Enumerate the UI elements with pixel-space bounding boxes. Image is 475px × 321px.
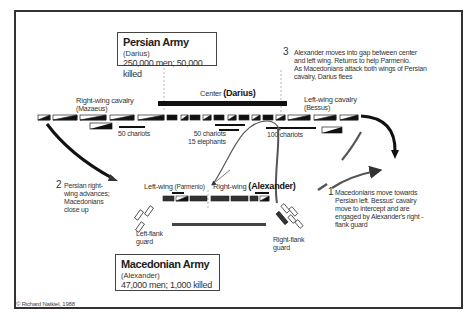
chariots-100-label: 100 chariots xyxy=(267,131,303,139)
macedonian-army-title: Macedonian Army xyxy=(121,258,214,271)
macedonian-left-wing-label: Left-wing (Parmenio) xyxy=(144,183,205,191)
chariots-50-label: 50 chariots xyxy=(118,130,150,138)
macedonian-front-line xyxy=(163,192,269,201)
chariots-elephants-label: 50 chariots 15 elephants xyxy=(182,130,226,146)
macedonian-right-wing-label: Right-wing (Alexander) xyxy=(213,182,296,191)
persian-front-line xyxy=(38,115,358,120)
persian-army-title: Persian Army xyxy=(123,36,211,49)
persian-center-label: Center (Darius) xyxy=(200,89,256,98)
left-flank-guard-units xyxy=(134,206,153,232)
right-flank-guard-units xyxy=(276,204,303,229)
annotation-2: 2 Persian right- wing advances; Macedoni… xyxy=(56,182,109,214)
copyright-credit: © Richard Natkiel, 1988 xyxy=(16,300,75,308)
persian-center-bar xyxy=(158,101,287,106)
persian-army-stats: 250,000 men; 50,000 killed xyxy=(123,58,211,80)
macedonian-army-commander: (Alexander) xyxy=(121,271,214,280)
annotation-1: 1 Macedonians move towards Persian left.… xyxy=(328,189,423,229)
left-flank-guard-label: Left-flank guard xyxy=(136,230,163,246)
annotation-3: 3 Alexander moves into gap between cente… xyxy=(283,49,427,81)
persian-right-wing-label: Right-wing cavalry (Mazaeus) xyxy=(76,97,134,113)
persian-army-box: Persian Army (Darius) 250,000 men; 50,00… xyxy=(117,32,217,66)
right-flank-guard-label: Right-flank guard xyxy=(273,236,304,252)
persian-army-commander: (Darius) xyxy=(123,49,211,58)
macedonian-army-box: Macedonian Army (Alexander) 47,000 men; … xyxy=(115,254,220,291)
persian-left-wing-label: Left-wing cavalry (Bessus) xyxy=(304,96,357,112)
macedonian-army-stats: 47,000 men; 1,000 killed xyxy=(121,280,214,291)
